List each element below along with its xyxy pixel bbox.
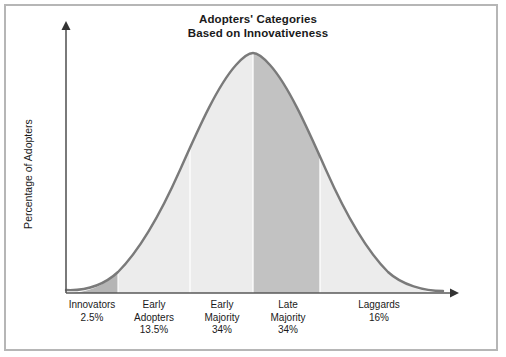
region-early-adopters: [118, 40, 190, 293]
category-name-late-majority-line1: Late: [248, 299, 328, 312]
y-axis-arrowhead: [62, 21, 71, 30]
y-axis-label: Percentage of Adopters: [22, 99, 34, 249]
region-laggards: [320, 40, 445, 293]
chart-title: Adopters' Categories Based on Innovative…: [148, 12, 368, 40]
region-early-majority: [190, 40, 253, 293]
chart-title-line2: Based on Innovativeness: [188, 27, 328, 39]
category-label-laggards: Laggards 16%: [339, 299, 419, 324]
category-name-laggards: Laggards: [339, 299, 419, 312]
category-label-late-majority: Late Majority 34%: [248, 299, 328, 337]
category-percent-laggards: 16%: [339, 312, 419, 325]
figure-root: Adopters' Categories Based on Innovative…: [0, 0, 506, 357]
category-percent-late-majority: 34%: [248, 324, 328, 337]
category-name-late-majority-line2: Majority: [248, 312, 328, 325]
region-innovators: [66, 40, 118, 293]
curve-fill-regions: [66, 40, 445, 293]
chart-title-line1: Adopters' Categories: [199, 13, 317, 25]
region-late-majority: [253, 40, 320, 293]
x-axis-arrowhead: [450, 289, 459, 298]
